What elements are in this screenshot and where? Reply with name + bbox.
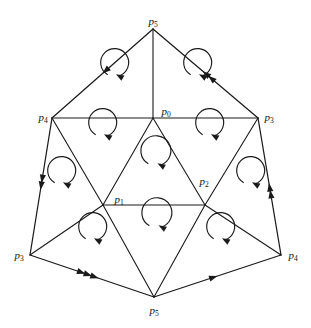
vertex-label-v-right: p3: [263, 111, 274, 125]
orient-mid-center-arrowhead: [157, 163, 165, 170]
vertex-label-subscript: 1: [120, 198, 124, 207]
inner-br-p2: [205, 205, 281, 255]
orient-left-outer: [48, 157, 76, 184]
orient-right-outer: [237, 157, 265, 184]
vertex-label-subscript: 5: [155, 309, 159, 318]
triangulation-figure: p5p4p3p3p4p5p0p1p2: [0, 0, 311, 328]
inner-p4-p1: [52, 118, 103, 205]
inner-p3-p2: [205, 118, 258, 205]
vertex-label-v-bottom: p5: [148, 304, 159, 318]
inner-p1-bottom: [103, 205, 154, 297]
edge-left-arrowhead-2: [39, 181, 45, 190]
vertex-label-layer: p5p4p3p3p4p5p0p1p2: [13, 15, 298, 318]
vertex-label-subscript: 2: [205, 180, 209, 189]
vertex-label-v-center-right: p2: [198, 175, 209, 189]
orient-lower-center-arrowhead: [158, 225, 166, 232]
vertex-label-v-bottom-left: p3: [13, 249, 24, 263]
edge-bottom-left-arrowhead-3: [90, 273, 99, 279]
vertex-label-v-center-top: p0: [160, 105, 171, 119]
vertex-label-subscript: 4: [44, 116, 48, 125]
edge-bottom-right-arrowhead-1: [208, 276, 217, 282]
orient-mid-right-arrowhead: [211, 134, 219, 141]
vertex-label-subscript: 4: [294, 254, 298, 263]
edge-layer: [30, 29, 281, 297]
orient-right-outer-arrowhead: [252, 182, 260, 189]
orient-lower-left: [79, 213, 107, 240]
orient-upper-right-a: [184, 49, 212, 76]
vertex-label-subscript: 5: [154, 20, 158, 29]
orientation-circle-layer: [48, 49, 265, 245]
vertex-label-v-left: p4: [37, 111, 48, 125]
vertex-label-v-bottom-right: p4: [287, 249, 298, 263]
edge-right-arrowhead-2: [267, 183, 273, 192]
orient-mid-left: [89, 109, 117, 136]
orient-mid-right: [196, 109, 224, 136]
orient-lower-right: [207, 213, 235, 240]
orient-lower-center: [142, 198, 172, 227]
inner-p0-p2: [153, 118, 205, 205]
vertex-label-subscript: 0: [167, 110, 171, 119]
orient-left-outer-arrowhead: [63, 182, 71, 189]
boundary-edge-layer: [30, 29, 281, 297]
orient-upper-left-a-arrowhead: [116, 74, 124, 81]
vertex-label-subscript: 3: [270, 116, 274, 125]
vertex-label-v-top: p5: [147, 15, 158, 29]
orient-mid-center: [141, 136, 171, 165]
orient-lower-right-arrowhead: [222, 238, 230, 245]
orient-mid-left-arrowhead: [104, 134, 112, 141]
orient-lower-left-arrowhead: [94, 238, 102, 245]
vertex-label-subscript: 3: [20, 254, 24, 263]
